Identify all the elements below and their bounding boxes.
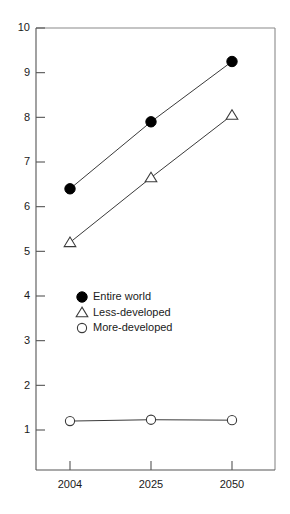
data-point-marker: [65, 184, 75, 194]
y-tick-label: 1: [24, 423, 30, 435]
legend-marker-icon: [77, 323, 86, 332]
x-tick-label: 2025: [139, 478, 163, 490]
legend-marker-icon: [77, 292, 87, 302]
data-point-marker: [65, 416, 74, 425]
y-tick-label: 4: [24, 289, 30, 301]
data-point-marker: [146, 415, 155, 424]
y-tick-label: 8: [24, 111, 30, 123]
y-tick-label: 2: [24, 379, 30, 391]
legend-entry-label: Less-developed: [93, 306, 171, 318]
y-tick-label: 6: [24, 200, 30, 212]
data-point-marker: [227, 56, 237, 66]
y-tick-label: 5: [24, 245, 30, 257]
chart-figure: 12345678910 200420252050 Entire worldLes…: [0, 0, 290, 514]
y-tick-label: 3: [24, 334, 30, 346]
data-point-marker: [146, 117, 156, 127]
y-tick-label: 7: [24, 155, 30, 167]
x-tick-label: 2004: [58, 478, 82, 490]
legend-entry-label: More-developed: [93, 321, 173, 333]
legend-entry-label: Entire world: [93, 290, 151, 302]
chart-canvas: 12345678910 200420252050 Entire worldLes…: [0, 0, 290, 514]
y-tick-label: 9: [24, 66, 30, 78]
x-tick-label: 2050: [220, 478, 244, 490]
y-tick-label: 10: [18, 21, 30, 33]
data-point-marker: [227, 416, 236, 425]
chart-background: [0, 0, 290, 514]
